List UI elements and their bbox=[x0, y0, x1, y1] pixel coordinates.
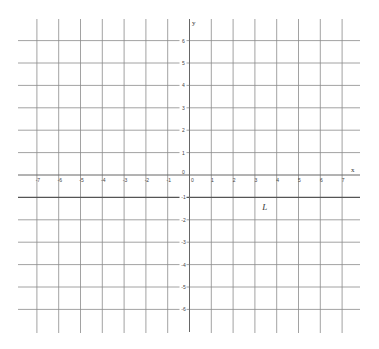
y-tick-label: 0 bbox=[182, 169, 185, 175]
y-tick-label: -2 bbox=[181, 217, 186, 223]
y-axis-label: y bbox=[192, 19, 196, 27]
x-tick-label: 7 bbox=[342, 177, 345, 183]
x-tick-label: 4 bbox=[276, 177, 279, 183]
y-tick-label: 4 bbox=[182, 82, 185, 88]
line-label-L: L bbox=[261, 202, 267, 212]
x-tick-label: -4 bbox=[101, 177, 106, 183]
y-tick-label: 3 bbox=[182, 105, 185, 111]
axes bbox=[18, 19, 360, 332]
y-tick-label: -6 bbox=[181, 306, 186, 312]
x-tick-label: 3 bbox=[255, 177, 258, 183]
y-tick-label: 2 bbox=[182, 127, 185, 133]
y-tick-label: -1 bbox=[181, 194, 186, 200]
x-tick-label: 1 bbox=[211, 177, 214, 183]
x-tick-label: -7 bbox=[36, 177, 41, 183]
y-tick-label: 1 bbox=[182, 150, 185, 156]
x-tick-label: -3 bbox=[123, 177, 128, 183]
y-tick-label: -4 bbox=[181, 262, 186, 268]
x-tick-label: -2 bbox=[145, 177, 150, 183]
x-tick-label: -5 bbox=[79, 177, 84, 183]
x-tick-label: 5 bbox=[298, 177, 301, 183]
x-tick-label: 0 bbox=[191, 177, 194, 183]
y-tick-label: 5 bbox=[182, 60, 185, 66]
x-tick-label: -6 bbox=[57, 177, 62, 183]
y-tick-label: 6 bbox=[182, 38, 185, 44]
coordinate-plane: -7-6-5-4-3-2-101234567 6543210-1-2-3-4-5… bbox=[0, 0, 379, 349]
y-tick-label: -5 bbox=[181, 284, 186, 290]
x-tick-labels: -7-6-5-4-3-2-101234567 bbox=[36, 177, 345, 183]
x-tick-label: 6 bbox=[320, 177, 323, 183]
x-axis-label: x bbox=[351, 166, 355, 174]
y-tick-label: -3 bbox=[181, 239, 186, 245]
x-tick-label: 2 bbox=[233, 177, 236, 183]
annotations: L bbox=[261, 202, 267, 212]
x-tick-label: -1 bbox=[166, 177, 171, 183]
